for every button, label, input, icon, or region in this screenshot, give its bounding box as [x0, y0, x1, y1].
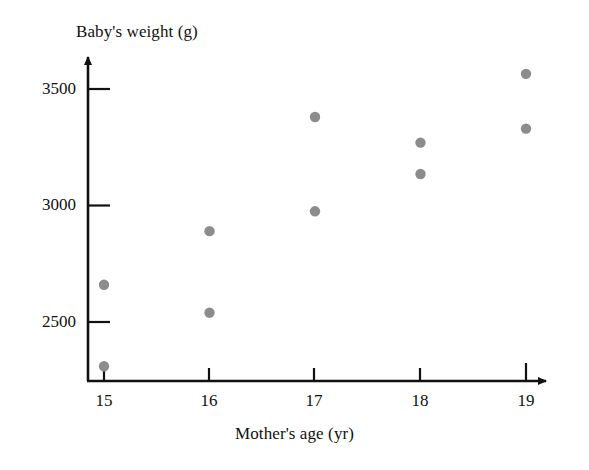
x-tick-label-15: 15 — [96, 391, 113, 411]
data-point — [521, 69, 531, 79]
scatter-plot-figure: Baby's weight (g) Mother's age (yr) 3500… — [0, 0, 589, 470]
data-point — [204, 226, 214, 236]
data-point — [204, 307, 214, 317]
x-axis-ticks — [104, 363, 526, 381]
x-tick-label-17: 17 — [306, 391, 323, 411]
data-point — [415, 169, 425, 179]
x-tick-label-18: 18 — [412, 391, 429, 411]
data-point — [310, 112, 320, 122]
data-point — [521, 123, 531, 133]
y-tick-label-3000: 3000 — [0, 195, 76, 215]
data-point — [310, 206, 320, 216]
y-tick-label-2500: 2500 — [0, 312, 76, 332]
data-point — [415, 137, 425, 147]
data-point-group — [99, 69, 531, 372]
chart-canvas — [0, 0, 589, 470]
data-point — [99, 361, 109, 371]
x-tick-label-16: 16 — [201, 391, 218, 411]
y-tick-label-3500: 3500 — [0, 79, 76, 99]
y-axis-title: Baby's weight (g) — [76, 22, 198, 42]
x-axis-title: Mother's age (yr) — [0, 424, 589, 444]
data-point — [99, 280, 109, 290]
x-tick-label-19: 19 — [518, 391, 535, 411]
